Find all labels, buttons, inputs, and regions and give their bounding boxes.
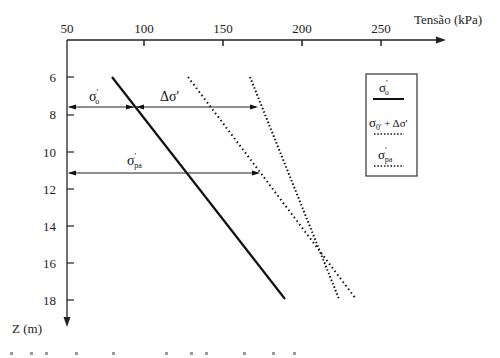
- series-sigma-o-line: [112, 77, 285, 299]
- y-tick-label: 14: [43, 219, 57, 234]
- y-tick-label: 16: [43, 256, 57, 271]
- legend: σ'o σ0' + Δσ' σ'pa: [366, 74, 417, 176]
- x-tick-label: 250: [371, 21, 391, 36]
- y-axis-title: Z (m): [12, 321, 42, 336]
- y-axis: 6 8 10 12 14 16 18 Z (m): [12, 40, 74, 336]
- x-tick-label: 100: [134, 21, 154, 36]
- annotation-delta-sigma: Δσ': [160, 89, 179, 104]
- y-tick-label: 8: [50, 107, 57, 122]
- series-sigma-pa-line: [250, 77, 339, 299]
- y-tick-label: 18: [43, 293, 56, 308]
- x-axis-arrow-icon: [436, 37, 446, 44]
- chart: 50 100 150 200 250 Tensão (kPa) 6 8 10 1…: [0, 0, 500, 358]
- x-tick-label: 50: [61, 21, 74, 36]
- y-tick-label: 6: [50, 70, 57, 85]
- annotation-sigma-pa: σ'pa: [127, 151, 142, 170]
- x-axis: 50 100 150 200 250 Tensão (kPa): [61, 12, 483, 46]
- y-tick-label: 10: [43, 145, 56, 160]
- annotation-sigma-o: σ'o: [89, 87, 99, 106]
- legend-item-sigma-o: σ'o: [379, 78, 389, 97]
- x-tick-label: 150: [213, 21, 233, 36]
- y-axis-arrow-icon: [64, 317, 71, 327]
- annotation-arrows: σ'o Δσ' σ'pa: [68, 87, 260, 176]
- x-axis-title: Tensão (kPa): [414, 12, 482, 27]
- series-sigma0-plus-delta-line: [188, 77, 356, 299]
- cropped-caption-fragment: [10, 352, 296, 355]
- x-tick-label: 200: [292, 21, 312, 36]
- y-tick-label: 12: [43, 182, 56, 197]
